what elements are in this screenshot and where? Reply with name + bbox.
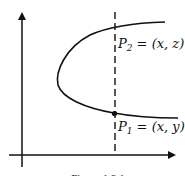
figure-caption: Figure 1.3.1 [71, 172, 124, 176]
label-p1: P1 = (x, y) [117, 119, 185, 136]
figure-canvas: P2 = (x, z) P1 = (x, y) Figure 1.3.1 [0, 0, 185, 176]
point-p1-dot [112, 111, 117, 116]
label-p2: P2 = (x, z) [117, 36, 184, 53]
